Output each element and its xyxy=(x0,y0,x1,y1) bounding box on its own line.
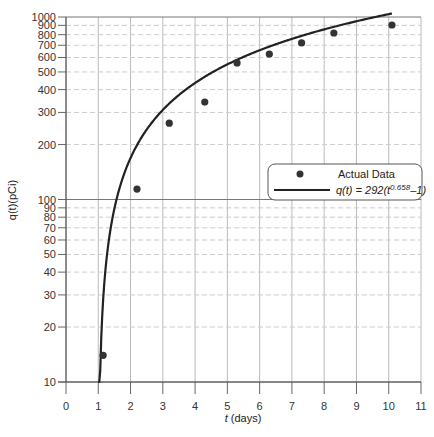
x-axis-title: t (days) xyxy=(225,412,262,424)
data-point xyxy=(388,21,395,28)
axes xyxy=(58,17,421,394)
x-tick-label: 0 xyxy=(63,400,69,412)
legend: Actual Data q(t) = 292(t0.658–1) xyxy=(268,164,426,200)
data-point xyxy=(330,29,337,36)
x-tick-label: 7 xyxy=(289,400,295,412)
y-tick-label: 200 xyxy=(38,139,56,151)
data-point xyxy=(201,98,208,105)
x-tick-label: 11 xyxy=(415,400,426,412)
y-tick-label: 700 xyxy=(38,39,56,51)
y-tick-label: 300 xyxy=(38,106,56,118)
x-tick-label: 2 xyxy=(127,400,133,412)
data-point xyxy=(298,39,305,46)
x-tick-label: 3 xyxy=(160,400,166,412)
y-tick-label: 60 xyxy=(44,234,56,246)
x-tick-label: 6 xyxy=(257,400,263,412)
tick-labels: 0123456789101110203040506070809010020030… xyxy=(32,11,427,412)
y-tick-label: 30 xyxy=(44,289,56,301)
y-axis-title: q(t)(pCi) xyxy=(6,180,18,220)
y-tick-label: 50 xyxy=(44,248,56,260)
y-tick-label: 500 xyxy=(38,66,56,78)
y-tick-label: 400 xyxy=(38,84,56,96)
x-tick-label: 4 xyxy=(192,400,198,412)
y-tick-label: 100 xyxy=(38,194,56,206)
y-tick-label: 20 xyxy=(44,321,56,333)
y-tick-label: 600 xyxy=(38,51,56,63)
legend-data-label: Actual Data xyxy=(338,168,396,180)
legend-marker-dot-icon xyxy=(297,171,304,178)
legend-fit-label: q(t) = 292(t0.658–1) xyxy=(336,183,426,196)
y-tick-label: 70 xyxy=(44,222,56,234)
x-tick-label: 1 xyxy=(95,400,101,412)
x-tick-label: 9 xyxy=(353,400,359,412)
data-point xyxy=(166,120,173,127)
chart: 0123456789101110203040506070809010020030… xyxy=(0,0,434,437)
data-point xyxy=(266,50,273,57)
data-point xyxy=(100,352,107,359)
y-tick-label: 10 xyxy=(44,376,56,388)
data-point xyxy=(133,186,140,193)
data-point xyxy=(233,59,240,66)
x-tick-label: 10 xyxy=(383,400,395,412)
x-tick-label: 8 xyxy=(321,400,327,412)
y-tick-label: 1000 xyxy=(32,11,56,23)
x-tick-label: 5 xyxy=(224,400,230,412)
y-tick-label: 40 xyxy=(44,266,56,278)
